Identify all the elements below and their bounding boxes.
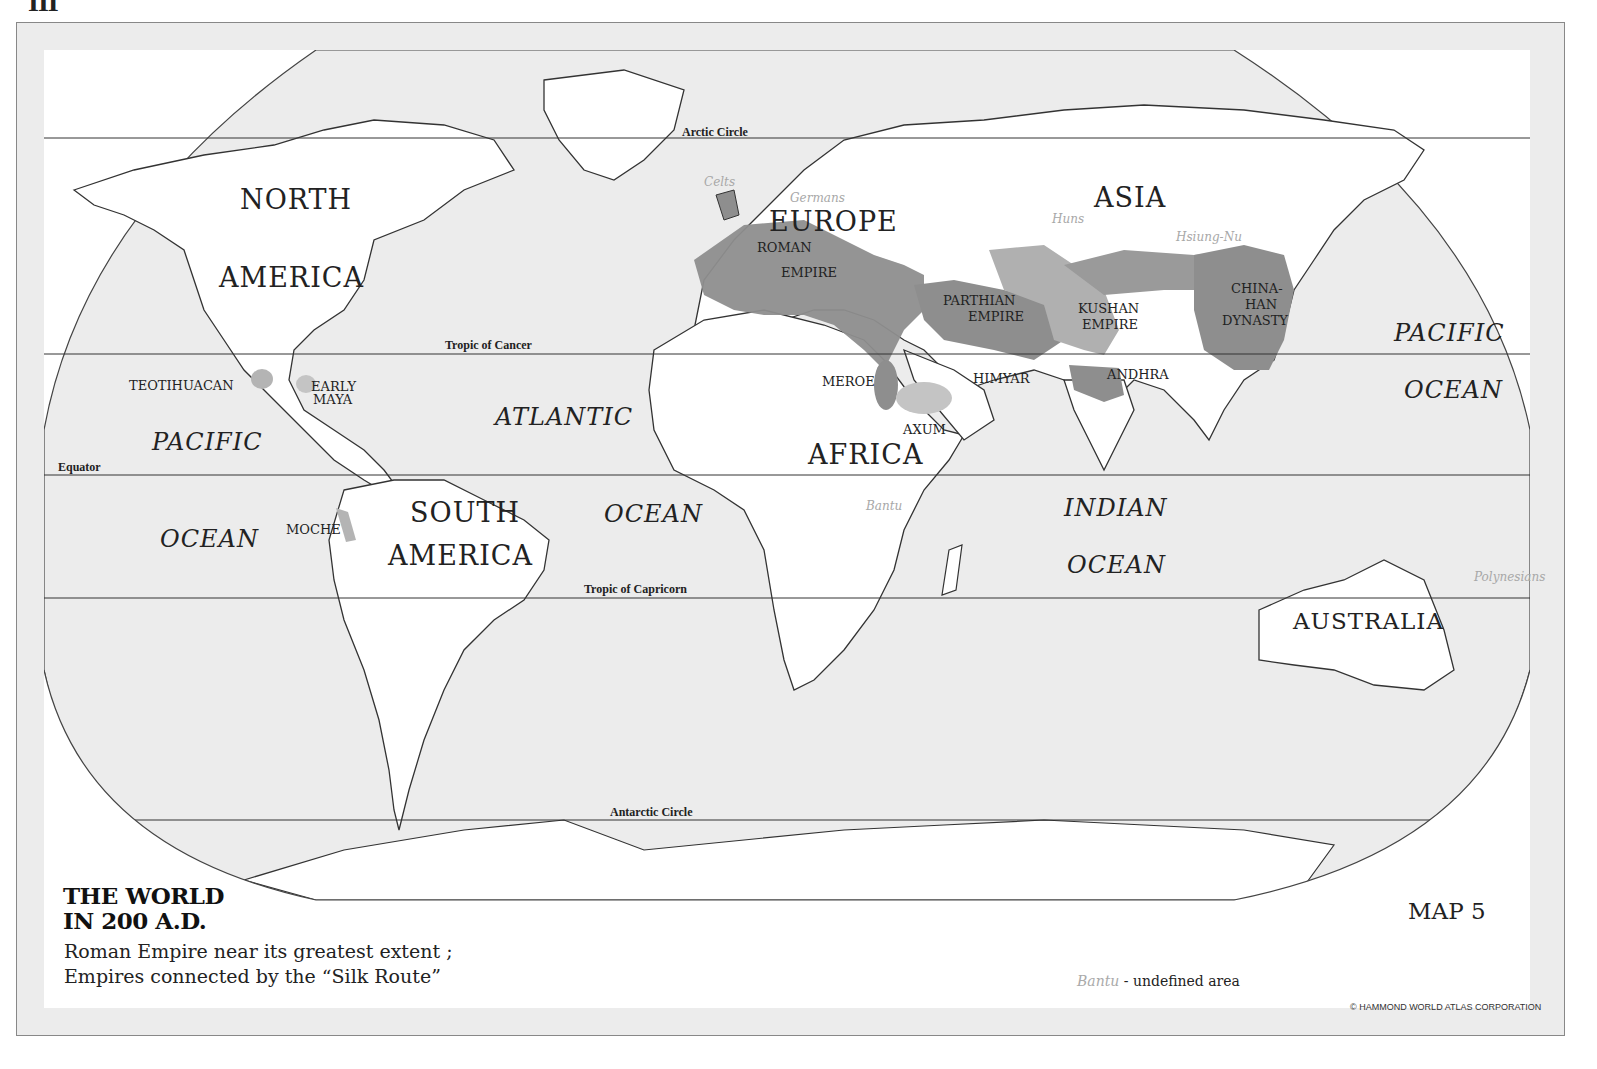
han-dynasty-label-3: DYNASTY bbox=[1222, 314, 1288, 328]
early-maya-label-2: MAYA bbox=[313, 393, 352, 407]
indian-label-1: INDIAN bbox=[1064, 496, 1168, 520]
hsiung-nu-label: Hsiung-Nu bbox=[1176, 231, 1242, 243]
celts-label: Celts bbox=[704, 176, 735, 188]
pacific-east-label-1: PACIFIC bbox=[1394, 321, 1505, 345]
kushan-empire-label-2: EMPIRE bbox=[1082, 318, 1138, 332]
legend-sample: Bantu bbox=[1077, 973, 1119, 989]
han-dynasty-label-2: HAN bbox=[1245, 298, 1277, 312]
germans-label: Germans bbox=[790, 192, 845, 204]
copyright: © HAMMOND WORLD ATLAS CORPORATION bbox=[1350, 1003, 1541, 1012]
polynesians-label: Polynesians bbox=[1474, 571, 1545, 583]
roman-empire-label-1: ROMAN bbox=[757, 241, 812, 255]
antarctic-circle-label: Antarctic Circle bbox=[610, 806, 693, 818]
axum-label: AXUM bbox=[903, 423, 946, 437]
axum-region bbox=[896, 382, 952, 414]
atlantic-label-2: OCEAN bbox=[604, 502, 703, 526]
map-title-line-2: IN 200 A.D. bbox=[63, 909, 206, 933]
map-title-line-1: THE WORLD bbox=[63, 884, 224, 908]
bantu-label: Bantu bbox=[866, 500, 902, 512]
arctic-circle-label: Arctic Circle bbox=[682, 126, 748, 138]
map-subtitle-line-2: Empires connected by the “Silk Route” bbox=[64, 965, 441, 988]
teotihuacan-label: TEOTIHUACAN bbox=[129, 379, 234, 393]
meroe-region bbox=[874, 360, 898, 410]
pacific-east-label-2: OCEAN bbox=[1404, 378, 1503, 402]
atlantic-label-1: ATLANTIC bbox=[495, 405, 633, 429]
map-number: MAP 5 bbox=[1408, 900, 1486, 923]
africa-label: AFRICA bbox=[808, 441, 923, 468]
equator-label: Equator bbox=[58, 461, 101, 473]
map-subtitle-line-1: Roman Empire near its greatest extent ; bbox=[64, 940, 453, 963]
europe-label: EUROPE bbox=[769, 208, 898, 235]
legend: Bantu - undefined area bbox=[1077, 974, 1240, 988]
indian-label-2: OCEAN bbox=[1067, 553, 1166, 577]
pacific-west-label-2: OCEAN bbox=[160, 527, 259, 551]
moche-label: MOCHE bbox=[286, 523, 341, 537]
meroe-label: MEROE bbox=[822, 375, 875, 389]
himyar-label: HIMYAR bbox=[973, 372, 1030, 386]
asia-label: ASIA bbox=[1094, 184, 1166, 211]
north-america-label-2: AMERICA bbox=[219, 264, 364, 291]
australia-label: AUSTRALIA bbox=[1293, 610, 1444, 633]
kushan-empire-label-1: KUSHAN bbox=[1078, 302, 1139, 316]
teotihuacan-region bbox=[251, 369, 273, 389]
tropic-of-cancer-label: Tropic of Cancer bbox=[445, 339, 532, 351]
page-number-mark: III bbox=[28, 0, 58, 18]
han-dynasty-label-1: CHINA- bbox=[1231, 282, 1283, 296]
huns-label: Huns bbox=[1052, 213, 1084, 225]
parthian-empire-label-1: PARTHIAN bbox=[943, 294, 1015, 308]
andhra-label: ANDHRA bbox=[1107, 368, 1169, 382]
roman-empire-label-2: EMPIRE bbox=[781, 266, 837, 280]
south-america-label-2: AMERICA bbox=[388, 542, 533, 569]
pacific-west-label-1: PACIFIC bbox=[152, 430, 263, 454]
north-america-label-1: NORTH bbox=[240, 186, 352, 213]
south-america-label-1: SOUTH bbox=[410, 499, 520, 526]
legend-text: - undefined area bbox=[1119, 973, 1240, 989]
parthian-empire-label-2: EMPIRE bbox=[968, 310, 1024, 324]
tropic-of-capricorn-label: Tropic of Capricorn bbox=[584, 583, 687, 595]
